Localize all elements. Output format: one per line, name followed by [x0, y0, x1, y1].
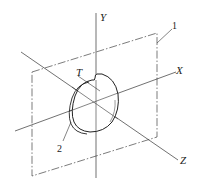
leader-2 — [63, 122, 71, 141]
notch-label-T: T — [76, 66, 83, 78]
disc-part — [69, 74, 118, 134]
z-axis-label: Z — [180, 154, 187, 166]
leader-1 — [157, 29, 172, 43]
coordinate-diagram: Y X Z 1 2 T — [0, 0, 198, 190]
x-axis-label: X — [175, 64, 184, 76]
callout-2: 2 — [57, 143, 62, 154]
callout-1: 1 — [172, 20, 177, 31]
diagram-canvas: Y X Z 1 2 T — [0, 0, 198, 190]
y-axis-label: Y — [100, 11, 108, 23]
